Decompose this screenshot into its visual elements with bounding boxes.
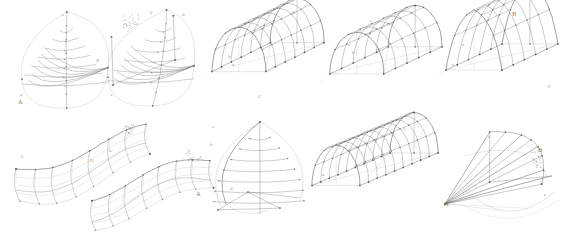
figure-label: a <box>20 92 23 97</box>
figure-label: x <box>110 92 113 97</box>
figure-label: b <box>150 10 153 15</box>
figure-label: c <box>544 192 547 197</box>
figure-label: a <box>212 124 215 129</box>
figure-label: d <box>182 12 185 17</box>
figure-label: c <box>370 18 373 23</box>
figure-label: H <box>90 158 94 163</box>
figure-label: a <box>488 134 491 139</box>
figure-label: a <box>232 62 235 67</box>
figure-label: A <box>444 200 449 207</box>
figure-label: B <box>292 10 296 15</box>
figure-label: c <box>62 12 65 17</box>
figure-label: A <box>20 154 24 159</box>
figure-label: a <box>348 42 351 47</box>
figure-label: c <box>452 62 455 67</box>
figure-label: a <box>322 172 325 177</box>
figure-label: B <box>512 10 517 17</box>
figure-label: F <box>548 84 551 89</box>
figure-label: b <box>228 54 231 59</box>
figure-label: A <box>196 190 201 197</box>
figure-label: b <box>352 50 355 55</box>
figure-label: B <box>96 58 100 63</box>
figure-label: B <box>128 126 132 131</box>
figure-label: A <box>402 126 406 131</box>
figure-label: b <box>210 142 213 147</box>
label-layer: AacBbdxBbaCcabBacFAHBAabdAAaABac <box>0 0 567 246</box>
figure-label: d <box>230 186 233 191</box>
figure-label: a <box>462 42 465 47</box>
drawing-sheet: AacBbdxBbaCcabBacFAHBAabdAAaABac <box>0 0 567 246</box>
figure-label: B <box>538 146 543 153</box>
figure-label: A <box>18 98 23 105</box>
figure-label: C <box>258 94 262 99</box>
figure-label: A <box>108 148 112 153</box>
